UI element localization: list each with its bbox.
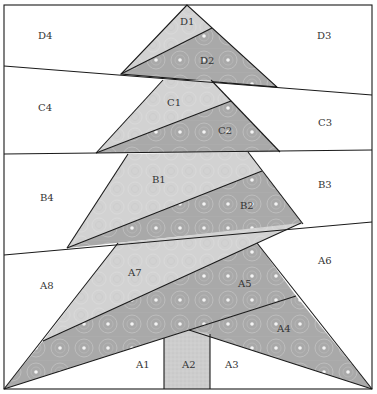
label-a6: A6: [317, 255, 332, 266]
label-b2: B2: [240, 200, 254, 211]
label-a1: A1: [135, 359, 150, 370]
label-d3: D3: [317, 30, 331, 41]
label-a7: A7: [127, 267, 142, 278]
label-c3: C3: [318, 117, 332, 128]
label-a4: A4: [276, 323, 291, 334]
label-b4: B4: [40, 192, 54, 203]
label-a2: A2: [181, 359, 196, 370]
label-b3: B3: [318, 179, 332, 190]
label-c1: C1: [167, 97, 181, 108]
label-c4: C4: [38, 102, 52, 113]
quilt-block-diagram: D1 D2 D3 D4 C1 C2 C3 C4 B1 B2 B3 B4 A1 A…: [0, 0, 377, 394]
tree-block-svg: D1 D2 D3 D4 C1 C2 C3 C4 B1 B2 B3 B4 A1 A…: [0, 0, 377, 394]
label-c2: C2: [218, 125, 232, 136]
label-a3: A3: [224, 359, 239, 370]
label-d1: D1: [180, 16, 194, 27]
label-a8: A8: [39, 280, 54, 291]
label-d4: D4: [38, 30, 52, 41]
label-d2: D2: [200, 55, 214, 66]
label-a5: A5: [237, 278, 252, 289]
label-b1: B1: [152, 174, 166, 185]
